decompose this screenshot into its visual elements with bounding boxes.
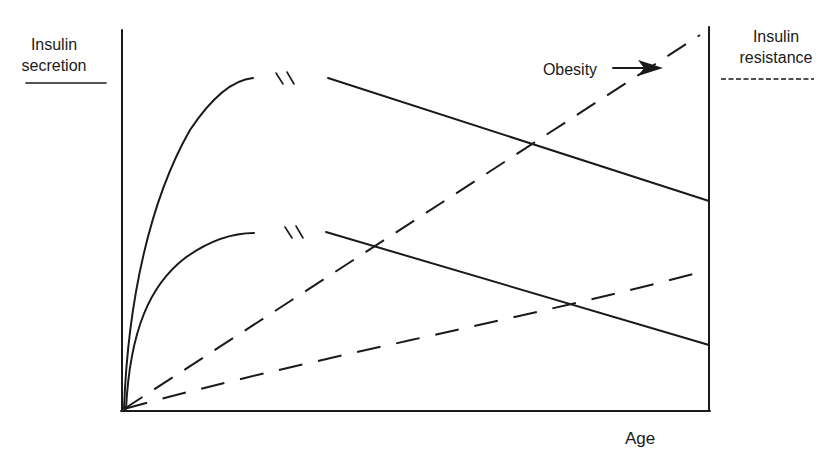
resistance-line-obesity	[124, 35, 700, 409]
secretion-curve-high-rise	[124, 78, 253, 409]
resistance-line-baseline	[124, 273, 697, 409]
axis-break-high-b	[287, 72, 294, 84]
chart-canvas	[0, 0, 840, 459]
secretion-line-low-decline	[326, 232, 709, 345]
axis-break-low-a	[285, 227, 292, 238]
axis-break-high-a	[276, 73, 283, 84]
secretion-curve-low-rise	[126, 233, 254, 409]
secretion-line-high-decline	[328, 78, 709, 201]
axis-break-low-b	[296, 226, 303, 238]
